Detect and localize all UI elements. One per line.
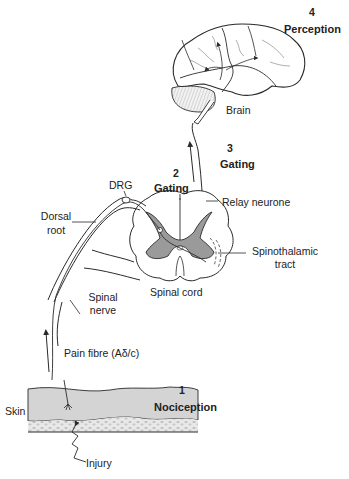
stage-3-transmission: Gating (220, 158, 255, 170)
stage-1-nociception: Nociception (154, 401, 217, 413)
stage-1-number: 1 (170, 384, 194, 396)
transmission-arrow (190, 144, 194, 182)
stage-2-gating: Gating (154, 182, 189, 194)
drg-label: DRG (109, 179, 132, 191)
spinal-nerve-label-line1: Spinal (86, 291, 120, 303)
spinal-nerve-leader (70, 300, 80, 314)
spinal-cord-label: Spinal cord (150, 286, 203, 298)
relay-neurone-label: Relay neurone (222, 196, 290, 208)
brain-label: Brain (226, 104, 251, 116)
pain-pathway-diagram: 4 Perception Brain 3 Gating DRG 2 Gating… (0, 0, 349, 479)
ascending-arrow (46, 332, 49, 372)
spinal-nerve-label-line2: nerve (86, 304, 120, 316)
spinothalamic-label-line1: Spinothalamic (250, 245, 320, 257)
stage-4-number: 4 (300, 6, 324, 18)
stage-2-number: 2 (164, 167, 188, 179)
spinal-cord-section (130, 191, 233, 281)
drg-leader (124, 191, 126, 196)
dorsal-root-label-line1: Dorsal (40, 210, 72, 222)
stage-3-number: 3 (218, 142, 242, 154)
dorsal-root-label-line2: root (40, 224, 72, 236)
skin-label: Skin (5, 405, 25, 417)
stage-4-perception: Perception (284, 23, 341, 35)
injury-label: Injury (86, 457, 112, 469)
pain-fibre-label: Pain fibre (Aδ/c) (64, 347, 139, 359)
spinothalamic-label-line2: tract (250, 258, 320, 270)
